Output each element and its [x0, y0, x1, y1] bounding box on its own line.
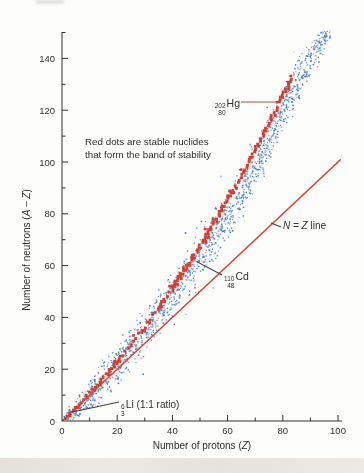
stability-note-line2: that form the band of stability	[85, 149, 211, 162]
y-tick-label: 0	[22, 416, 55, 427]
figure-band-of-stability: 020406080100020406080100120140 Number of…	[0, 0, 364, 473]
y-tick-label: 100	[22, 157, 55, 168]
y-tick-label: 140	[22, 53, 55, 64]
y-tick-label: 120	[22, 105, 55, 116]
n-equals-z-label: N = Z line	[283, 220, 326, 231]
y-tick-label: 40	[22, 312, 55, 323]
page-edge-strip	[0, 458, 364, 473]
cd-atomic-number: 48	[227, 283, 234, 290]
stability-note-line1: Red dots are stable nuclides	[85, 136, 211, 149]
stability-chart-canvas	[0, 0, 364, 473]
x-tick-label: 100	[330, 425, 346, 436]
y-axis-title: Number of neutrons (A − Z)	[21, 189, 32, 311]
li-nuclide-label: 63Li (1:1 ratio)	[121, 394, 179, 418]
x-tick-label: 0	[59, 425, 64, 436]
x-tick-label: 60	[222, 425, 233, 436]
stability-note: Red dots are stable nuclides that form t…	[85, 136, 211, 161]
hg-nuclide-label: 20280Hg	[185, 93, 240, 117]
li-ratio-text: (1:1 ratio)	[134, 399, 180, 410]
li-atomic-number: 3	[121, 411, 125, 418]
cd-symbol: Cd	[235, 270, 248, 282]
li-symbol: Li	[126, 398, 134, 410]
x-tick-label: 40	[167, 425, 178, 436]
hg-symbol: Hg	[227, 97, 240, 109]
hg-atomic-number: 80	[218, 110, 225, 117]
cd-nuclide-label: 11048Cd	[224, 266, 249, 290]
x-tick-label: 20	[112, 425, 123, 436]
x-axis-title: Number of protons (Z)	[153, 440, 251, 451]
y-tick-label: 20	[22, 364, 55, 375]
x-tick-label: 80	[278, 425, 289, 436]
